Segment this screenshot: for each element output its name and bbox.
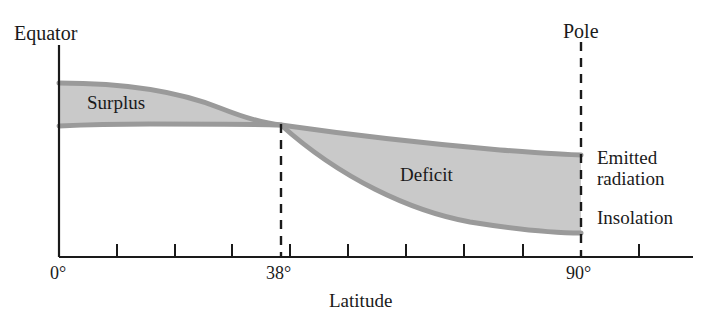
x-tick-label-38: 38° — [266, 263, 291, 283]
surplus-region-label: Surplus — [87, 92, 145, 113]
emitted-radiation-label-line2: radiation — [597, 168, 665, 189]
x-axis-ticks — [117, 244, 639, 257]
x-tick-label-90: 90° — [566, 263, 591, 283]
insolation-series-label: Insolation — [597, 207, 673, 228]
deficit-region-label: Deficit — [400, 164, 453, 185]
x-tick-label-0: 0° — [50, 263, 66, 283]
emitted-radiation-label-line1: Emitted — [597, 147, 665, 168]
equator-label: Equator — [14, 22, 77, 44]
x-axis-title: Latitude — [329, 290, 392, 311]
radiation-balance-figure: Equator Pole Surplus Deficit Emitted rad… — [0, 0, 716, 332]
emitted-radiation-series-label: Emitted radiation — [597, 147, 665, 190]
pole-label: Pole — [563, 20, 599, 42]
